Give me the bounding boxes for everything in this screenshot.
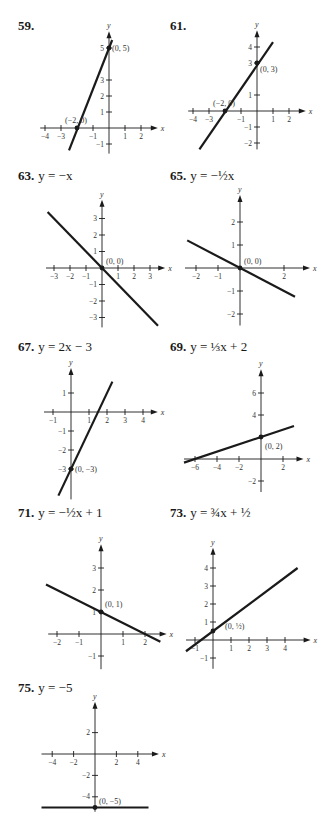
y-tick-label: −2 bbox=[82, 771, 90, 780]
point-label: (0, −5) bbox=[99, 797, 121, 806]
y-tick-label: −4 bbox=[82, 792, 90, 801]
point-marker bbox=[93, 805, 98, 810]
y-tick-label: 2 bbox=[86, 728, 90, 737]
x-tick-label: 2 bbox=[115, 758, 119, 767]
x-axis-arrow-icon bbox=[152, 752, 159, 757]
x-axis-label: x bbox=[161, 750, 166, 759]
x-tick-label: 4 bbox=[136, 758, 140, 767]
x-tick-label: −4 bbox=[48, 758, 56, 767]
x-tick-label: −2 bbox=[70, 758, 78, 767]
y-axis-arrow-icon bbox=[93, 702, 98, 709]
graph-75: xy−4−224−4−22(0, −5) bbox=[0, 0, 319, 816]
y-axis-label: y bbox=[92, 692, 97, 701]
